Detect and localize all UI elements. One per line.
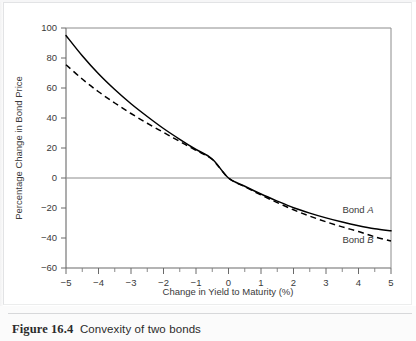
figure-number: Figure 16.4 [12,322,73,336]
y-tick-label: 20 [46,142,57,153]
x-tick-label: −4 [93,277,104,288]
series-label-bond-a: Bond A [342,204,373,215]
series-label-bond-b: Bond B [342,234,374,245]
y-tick-label: −20 [41,202,57,213]
y-tick-label: 80 [46,52,57,63]
figure-container: −60−40−20020406080100 −5−4−3−2−1012345 C… [0,0,416,341]
x-tick-label: 5 [388,277,393,288]
figure-title: Convexity of two bonds [73,323,201,335]
y-tick-label: 100 [41,22,57,33]
x-tick-label: −5 [61,277,72,288]
x-tick-label: −3 [126,277,137,288]
figure-caption: Figure 16.4 Convexity of two bonds [12,322,408,337]
x-axis-title: Change in Yield to Maturity (%) [163,286,294,297]
y-tick-label: −40 [41,232,57,243]
y-axis-title: Percentage Change in Bond Price [13,76,24,220]
x-tick-label: 4 [356,277,361,288]
y-tick-label: −60 [41,262,57,273]
x-tick-label: 3 [323,277,328,288]
plot-frame [66,28,391,268]
y-tick-label: 40 [46,112,57,123]
y-axis-tick-labels: −60−40−20020406080100 [41,22,57,273]
y-tick-label: 0 [52,172,57,183]
y-axis-ticks [61,28,66,268]
caption-separator-rule [8,313,412,314]
convexity-line-chart: −60−40−20020406080100 −5−4−3−2−1012345 C… [0,0,416,306]
series-line-bond-a [66,36,391,231]
y-tick-label: 60 [46,82,57,93]
